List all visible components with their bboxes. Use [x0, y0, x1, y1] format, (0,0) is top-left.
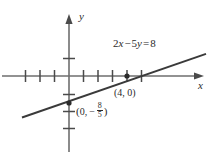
point-marker-x-intercept: [124, 73, 129, 78]
fraction-numerator: 8: [97, 102, 103, 110]
x-intercept-label: (4, 0): [114, 88, 136, 98]
equation-equals-sign: =: [142, 37, 150, 49]
y-intercept-minus-sign: −: [87, 107, 96, 117]
y-intercept-zero: 0,: [80, 107, 88, 117]
y-axis-label: y: [79, 11, 84, 22]
point-marker-y-intercept: [66, 100, 71, 105]
y-axis-arrowhead: [65, 14, 72, 24]
plotted-line: [22, 54, 206, 118]
equation-minus-sign: −: [123, 37, 131, 49]
equation-label: 2x−5y=8: [113, 38, 156, 49]
x-axis-label: x: [198, 80, 203, 91]
y-intercept-close-paren: ): [104, 106, 108, 117]
coordinate-plane-svg: [0, 0, 212, 157]
y-intercept-label: (0,− 8 5 ): [76, 103, 107, 121]
math-figure-line-graph: y x 2x−5y=8 (4, 0) (0,− 8 5 ): [0, 0, 212, 157]
equation-rhs: 8: [150, 37, 156, 49]
fraction-denominator: 5: [97, 110, 103, 119]
y-intercept-fraction: 8 5: [97, 102, 103, 120]
